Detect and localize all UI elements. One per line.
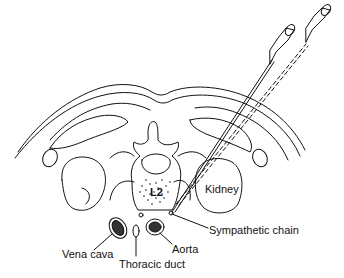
kidney-label: Kidney: [205, 183, 239, 195]
sympathetic-leader: [172, 214, 208, 228]
sympathetic-chain-label: Sympathetic chain: [209, 224, 299, 236]
needle-dashed-hub: [306, 3, 333, 42]
aorta-label: Aorta: [172, 243, 198, 255]
right-rib-section: [250, 147, 270, 169]
cross-section-diagram: L2: [0, 0, 344, 278]
sympathetic-chain-left: [139, 213, 143, 217]
paraspinal-muscles: [50, 115, 252, 152]
left-psoas: [110, 181, 134, 200]
aorta-leader: [160, 233, 172, 244]
left-kidney: [62, 157, 106, 210]
vena-cava-label: Vena cava: [62, 248, 113, 260]
left-rib-section: [40, 147, 60, 169]
thoracic-duct: [133, 225, 139, 237]
thoracic-duct-label: Thoracic duct: [119, 258, 185, 270]
aorta: [146, 219, 164, 235]
vena-cava: [106, 214, 131, 241]
vertebra-label: L2: [150, 186, 163, 198]
